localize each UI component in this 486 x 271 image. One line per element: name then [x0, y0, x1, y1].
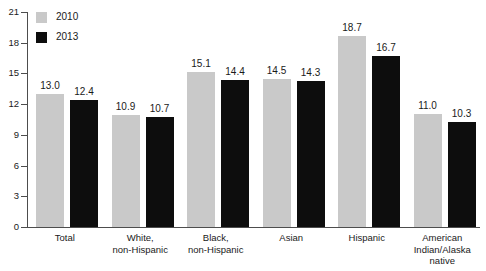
bar-2010 — [338, 36, 366, 227]
y-axis-tick-label: 15 — [0, 68, 19, 78]
bar-value-label: 15.1 — [184, 59, 218, 69]
bar-2010 — [414, 114, 442, 227]
x-axis-line — [27, 227, 480, 228]
y-axis-tick-label: 0 — [0, 222, 19, 232]
bar-chart: 036912151821 2010 2013 13.012.410.910.71… — [0, 0, 486, 271]
bar-2010 — [36, 94, 64, 227]
y-axis-tick-label: 3 — [0, 191, 19, 201]
category-label-line: Indian/Alaska — [396, 244, 486, 256]
bar-group: 10.910.7 — [103, 12, 179, 227]
category-label-line: native — [396, 255, 486, 267]
bar-value-label: 16.7 — [369, 43, 403, 53]
bar-group: 14.514.3 — [254, 12, 330, 227]
bar-value-label: 13.0 — [33, 81, 67, 91]
plot-area: 13.012.410.910.715.114.414.514.318.716.7… — [27, 12, 480, 227]
bar-value-label: 14.4 — [218, 67, 252, 77]
bar-value-label: 12.4 — [67, 87, 101, 97]
bar-value-label: 10.7 — [143, 104, 177, 114]
bar-2013 — [70, 100, 98, 227]
bar-2013 — [297, 81, 325, 227]
bar-group: 15.114.4 — [178, 12, 254, 227]
y-axis-tick-label: 6 — [0, 161, 19, 171]
bar-group: 11.010.3 — [405, 12, 481, 227]
y-axis-tick — [21, 227, 27, 228]
bar-value-label: 14.3 — [294, 68, 328, 78]
bar-2013 — [146, 117, 174, 227]
category-label: AmericanIndian/Alaskanative — [396, 232, 486, 267]
category-label-line: non-Hispanic — [170, 244, 262, 256]
bar-value-label: 10.3 — [445, 109, 479, 119]
bar-2010 — [187, 72, 215, 227]
y-axis-tick-label: 18 — [0, 38, 19, 48]
bar-value-label: 14.5 — [260, 66, 294, 76]
y-axis-tick-label: 12 — [0, 99, 19, 109]
bar-value-label: 10.9 — [109, 102, 143, 112]
bar-value-label: 18.7 — [335, 23, 369, 33]
category-label-line: American — [396, 232, 486, 244]
y-axis-tick-label: 9 — [0, 130, 19, 140]
bar-group: 18.716.7 — [329, 12, 405, 227]
bar-2010 — [263, 79, 291, 227]
bar-value-label: 11.0 — [411, 101, 445, 111]
bar-2013 — [221, 80, 249, 227]
bar-2013 — [448, 122, 476, 227]
bar-2010 — [112, 115, 140, 227]
bar-group: 13.012.4 — [27, 12, 103, 227]
bar-2013 — [372, 56, 400, 227]
y-axis-tick-label: 21 — [0, 7, 19, 17]
